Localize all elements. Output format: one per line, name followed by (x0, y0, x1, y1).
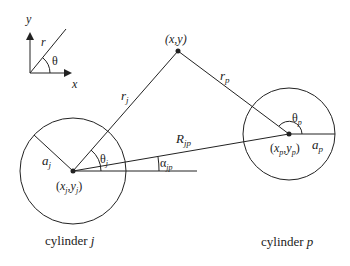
theta-label: θ (52, 54, 58, 68)
cylinder-j-caption: cylinder j (45, 233, 95, 248)
radius-a-j-label: aj (42, 153, 52, 170)
alpha-jp-label: αjp (160, 156, 173, 172)
y-axis-label: y (25, 12, 32, 26)
cylinder-p-caption: cylinder p (261, 234, 314, 249)
r-label: r (41, 35, 46, 49)
r-p-line (178, 51, 289, 134)
cylinder-j: aj (xj,yj) cylinder j (20, 118, 126, 248)
alpha-jp-arc (158, 157, 159, 171)
r-radial-line (30, 29, 66, 73)
center-p-label: (xp,yp) (270, 141, 300, 157)
radius-a-j-line (34, 135, 73, 171)
r-jp-label: Rjp (175, 131, 191, 148)
radius-a-p-label: ap (312, 137, 324, 154)
theta-p-label: θp (292, 111, 302, 127)
r-j-label: rj (121, 88, 129, 105)
r-j-line (73, 51, 178, 171)
center-j-label: (xj,yj) (56, 179, 82, 195)
theta-j-label: θj (100, 152, 109, 168)
theta-arc (43, 58, 50, 73)
coordinate-axes-inset: y x r θ (25, 12, 78, 91)
field-point-label: (x,y) (165, 32, 187, 46)
field-point-dot (176, 49, 181, 54)
x-axis-label: x (71, 77, 78, 91)
cylinder-geometry-diagram: y x r θ aj (xj,yj) cylinder j θp ap (xp,… (0, 0, 350, 266)
r-p-label: rp (220, 68, 230, 85)
cylinder-p: θp ap (xp,yp) cylinder p (243, 88, 335, 249)
